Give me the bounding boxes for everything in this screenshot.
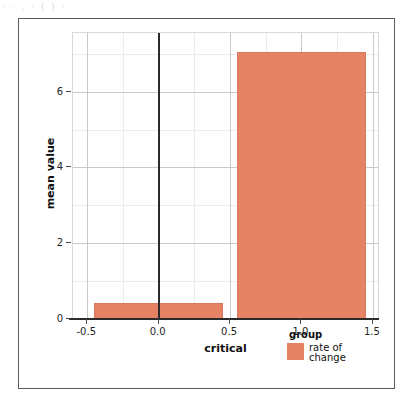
x-axis-tick (229, 319, 230, 324)
legend-item-label: rate of change (309, 343, 367, 363)
x-axis-tick-label: 0.0 (150, 326, 166, 337)
y-axis-label: mean value (44, 138, 57, 210)
x-axis-tick-label: 1.0 (293, 326, 309, 337)
gridline-vertical-minor (194, 33, 195, 318)
figure-frame: mean value critical group rate of change… (18, 18, 395, 389)
x-axis-tick (86, 319, 87, 324)
legend-item[interactable]: rate of change (287, 343, 387, 363)
x-axis-tick (372, 319, 373, 324)
x-axis-tick (300, 319, 301, 324)
y-axis-tick-label: 6 (46, 85, 63, 96)
gridline-vertical-major (373, 33, 374, 318)
gridline-vertical-minor (123, 33, 124, 318)
bar-1[interactable] (237, 52, 366, 319)
top-edge-artifact: · · , · ( ) · (0, 0, 413, 14)
y-axis-tick-label: 2 (46, 237, 63, 248)
zero-vertical-reference-line (158, 33, 160, 318)
x-axis-tick (158, 319, 159, 324)
zero-horizontal-reference-line (69, 318, 379, 320)
gridline-vertical-major (230, 33, 231, 318)
y-axis-tick (66, 166, 71, 167)
y-axis-tick (66, 91, 71, 92)
legend-swatch-icon (287, 343, 304, 360)
y-axis-tick (66, 242, 71, 243)
plot-area (72, 32, 379, 318)
y-axis-tick (66, 318, 71, 319)
y-axis-tick-label: 4 (46, 161, 63, 172)
y-axis-tick-label: 0 (46, 313, 63, 324)
x-axis-tick-label: 1.5 (364, 326, 380, 337)
x-axis-tick-label: -0.5 (77, 326, 97, 337)
x-axis-tick-label: 0.5 (221, 326, 237, 337)
gridline-vertical-major (87, 33, 88, 318)
